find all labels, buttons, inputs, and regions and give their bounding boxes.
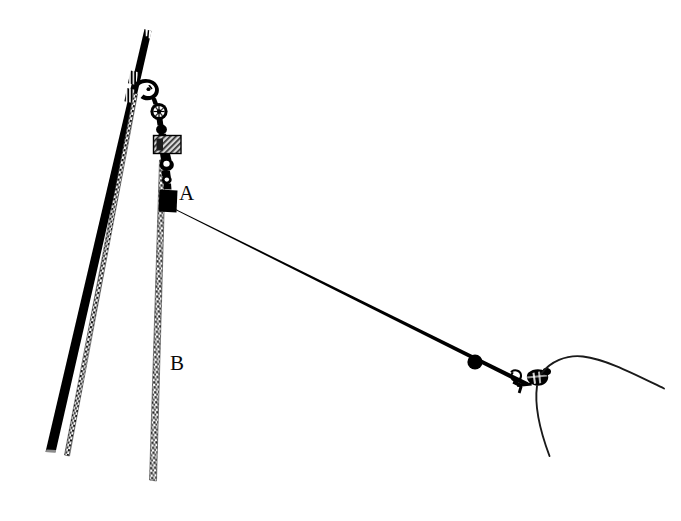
upper-shackle [135,79,159,100]
ring-thimble [150,103,167,120]
knot-cluster [527,368,551,386]
swivel-stem [156,119,167,138]
line-bead [467,354,482,369]
mast-pole [46,29,152,453]
knot-tail [536,386,549,456]
label-a: A [179,183,195,204]
label-b: B [170,353,185,374]
slack-curve [542,356,665,388]
hatched-plate [154,136,182,154]
figure-canvas: A B [0,0,681,521]
hardware-cluster [135,79,182,213]
drawing-layer [46,29,665,482]
stay-rope [65,93,138,456]
rigging-illustration [0,0,681,521]
